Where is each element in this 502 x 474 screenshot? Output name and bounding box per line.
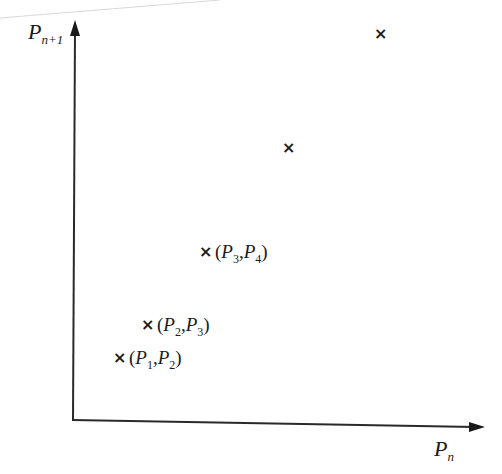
point-label-p1-p2: (P1,P2): [129, 348, 182, 371]
cross-marker-icon: ×: [374, 26, 387, 42]
y-axis-label: Pn+1: [28, 21, 63, 46]
cross-marker-icon: ×: [113, 350, 126, 366]
cross-marker-icon: ×: [141, 317, 154, 333]
page-edge: [0, 0, 220, 18]
axes-diagram: [0, 0, 502, 474]
point-label-p2-p3: (P2,P3): [157, 315, 210, 338]
x-axis-arrow-icon: [469, 422, 485, 432]
cross-marker-icon: ×: [282, 140, 295, 156]
x-axis-label: Pn: [434, 438, 454, 463]
y-axis-arrow-icon: [70, 20, 80, 36]
x-axis: [72, 420, 475, 427]
cross-marker-icon: ×: [199, 244, 212, 260]
point-label-p3-p4: (P3,P4): [215, 242, 268, 265]
y-axis: [73, 30, 75, 420]
